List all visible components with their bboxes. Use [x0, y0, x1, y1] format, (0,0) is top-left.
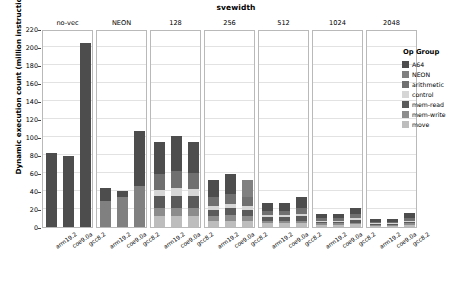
- bar-NEON-arm19.2: [100, 188, 111, 227]
- bar-segment-A64: [171, 136, 182, 171]
- gridline: [205, 46, 254, 47]
- gridline: [313, 64, 362, 65]
- bar-segment-mem-write: [225, 215, 236, 220]
- panel-no-vec: [42, 30, 93, 228]
- bar-segment-control: [188, 189, 199, 196]
- legend-item-arithmetic[interactable]: arithmetic: [402, 79, 472, 89]
- gridline: [259, 118, 308, 119]
- bar-segment-arithmetic: [387, 222, 398, 224]
- bar-segment-mem-read: [279, 217, 290, 221]
- bar-segment-mem-write: [242, 216, 253, 221]
- legend-swatch-icon: [402, 91, 409, 98]
- gridline: [205, 154, 254, 155]
- gridline: [259, 82, 308, 83]
- bar-segment-NEON: [117, 197, 128, 227]
- gridline: [259, 46, 308, 47]
- gridline: [313, 100, 362, 101]
- legend-swatch-icon: [402, 61, 409, 68]
- legend-label: mem-read: [412, 101, 444, 108]
- facet-strip-512: 512: [258, 18, 309, 29]
- bar-segment-arithmetic: [350, 214, 361, 218]
- bar-segment-arithmetic: [262, 211, 273, 216]
- legend-swatch-icon: [402, 111, 409, 118]
- bar-segment-A64: [262, 203, 273, 211]
- legend-label: control: [412, 91, 433, 98]
- bar-segment-move: [333, 225, 344, 227]
- legend-entries: A64NEONarithmeticcontrolmem-readmem-writ…: [402, 59, 472, 129]
- legend-item-mem-read[interactable]: mem-read: [402, 99, 472, 109]
- panel-512: [258, 30, 309, 228]
- bar-segment-control: [316, 221, 327, 222]
- gridline: [151, 82, 200, 83]
- bar-segment-arithmetic: [154, 174, 165, 190]
- legend-label: mem-write: [412, 111, 446, 118]
- y-tick-label: 80: [18, 153, 38, 159]
- bar-segment-mem-write: [296, 221, 307, 224]
- bar-segment-mem-write: [171, 208, 182, 216]
- legend-label: arithmetic: [412, 81, 444, 88]
- bar-128-gcc8.2: [188, 142, 199, 228]
- gridline: [205, 64, 254, 65]
- legend-item-move[interactable]: move: [402, 119, 472, 129]
- legend: Op Group A64NEONarithmeticcontrolmem-rea…: [402, 48, 472, 129]
- chart-container: svewidth Dynamic execution count (millio…: [0, 0, 472, 284]
- chart-title: svewidth: [0, 3, 472, 12]
- y-tick-label: 180: [18, 63, 38, 69]
- bar-segment-mem-write: [262, 221, 273, 224]
- y-tick-mark: [38, 138, 41, 139]
- gridline: [367, 46, 416, 47]
- bar-segment-mem-read: [154, 196, 165, 208]
- bar-segment-mem-read: [370, 224, 381, 225]
- gridline: [313, 190, 362, 191]
- bar-segment-control: [262, 215, 273, 217]
- legend-title: Op Group: [402, 48, 472, 56]
- panel-NEON: [96, 30, 147, 228]
- bar-segment-control: [225, 204, 236, 209]
- y-tick-label: 0: [18, 225, 38, 231]
- gridline: [97, 82, 146, 83]
- facet-strip-256: 256: [204, 18, 255, 29]
- gridline: [97, 46, 146, 47]
- bar-segment-A64: [333, 214, 344, 219]
- y-tick-mark: [38, 48, 41, 49]
- bar-segment-move: [316, 225, 327, 227]
- bar-segment-A64: [63, 156, 74, 227]
- gridline: [151, 46, 200, 47]
- bar-segment-move: [387, 226, 398, 227]
- legend-swatch-icon: [402, 101, 409, 108]
- legend-item-NEON[interactable]: NEON: [402, 69, 472, 79]
- gridline: [259, 154, 308, 155]
- bar-segment-arithmetic: [296, 208, 307, 213]
- legend-item-mem-write[interactable]: mem-write: [402, 109, 472, 119]
- legend-item-control[interactable]: control: [402, 89, 472, 99]
- y-tick-label: 140: [18, 99, 38, 105]
- bar-1024-arm19.2: [316, 214, 327, 228]
- gridline: [367, 136, 416, 137]
- y-tick-mark: [38, 174, 41, 175]
- bar-segment-arithmetic: [242, 197, 253, 206]
- legend-item-A64[interactable]: A64: [402, 59, 472, 69]
- bar-1024-coe9.0a: [333, 214, 344, 228]
- y-tick-mark: [38, 66, 41, 67]
- bar-segment-move: [242, 221, 253, 227]
- bar-segment-mem-write: [404, 223, 415, 225]
- bar-segment-A64: [208, 180, 219, 197]
- gridline: [259, 172, 308, 173]
- y-tick-mark: [38, 192, 41, 193]
- bar-segment-move: [370, 226, 381, 227]
- bar-segment-control: [333, 221, 344, 222]
- bar-segment-mem-read: [404, 222, 415, 224]
- facet-strip-1024: 1024: [312, 18, 363, 29]
- gridline: [151, 118, 200, 119]
- gridline: [205, 82, 254, 83]
- gridline: [259, 100, 308, 101]
- bar-segment-move: [225, 221, 236, 227]
- panel-1024: [312, 30, 363, 228]
- bar-segment-A64: [154, 142, 165, 174]
- gridline: [367, 172, 416, 173]
- gridline: [367, 208, 416, 209]
- gridline: [313, 46, 362, 47]
- bar-segment-control: [387, 223, 398, 224]
- bar-segment-NEON: [242, 180, 253, 197]
- bar-segment-control: [404, 221, 415, 222]
